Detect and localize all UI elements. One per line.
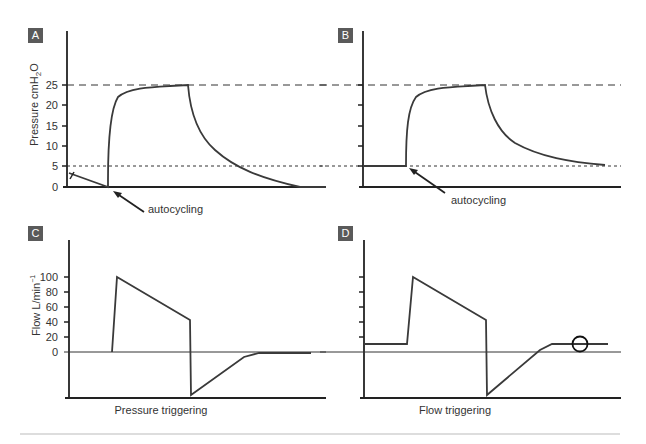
panel-label-a: A <box>28 28 43 43</box>
pressure-curve <box>363 85 605 166</box>
panel-c-plot <box>64 240 326 399</box>
autocycling-arrow <box>116 193 144 212</box>
flow-curve <box>364 277 608 395</box>
panel-label-d: D <box>338 226 353 241</box>
panel-label-c: C <box>28 226 43 241</box>
y-axis-label-flow: Flow L/min−1 <box>29 275 42 336</box>
tick-label: 0 <box>30 346 58 358</box>
flow-curve <box>112 277 311 395</box>
tick-label: 5 <box>30 160 58 172</box>
caption-pressure-triggering: Pressure triggering <box>81 404 241 416</box>
tick-label: 0 <box>30 181 58 193</box>
panel-a-plot <box>62 31 326 212</box>
panel-d-plot <box>320 240 621 399</box>
annotation-autocycling-a: autocycling <box>148 203 203 215</box>
y-axis-label-pressure: Pressure cmH2O <box>28 63 43 146</box>
chart-canvas <box>0 0 646 444</box>
panel-b-plot <box>320 31 621 193</box>
autocycling-arrow <box>412 170 445 193</box>
caption-flow-triggering: Flow triggering <box>375 404 535 416</box>
pressure-curve <box>69 85 326 187</box>
panel-label-b: B <box>338 28 353 43</box>
annotation-autocycling-b: autocycling <box>451 194 506 206</box>
